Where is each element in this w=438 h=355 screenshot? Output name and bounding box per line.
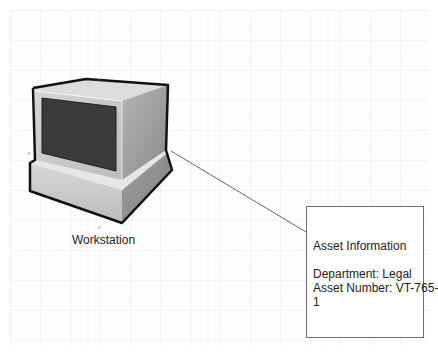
callout-asset-number-cont: 1: [313, 295, 423, 309]
callout-spacer: [313, 253, 423, 267]
asset-info-callout[interactable]: Asset Information Department: Legal Asse…: [306, 206, 424, 338]
connection-point-top-icon[interactable]: ×: [97, 76, 101, 82]
callout-text: Asset Information Department: Legal Asse…: [313, 239, 423, 309]
connection-point-bottom-icon[interactable]: ×: [97, 224, 101, 230]
connection-point-left-icon[interactable]: ×: [27, 150, 31, 156]
callout-asset-number: Asset Number: VT-765-: [313, 281, 423, 295]
callout-title: Asset Information: [313, 239, 423, 253]
callout-department: Department: Legal: [313, 267, 423, 281]
workstation-label[interactable]: Workstation: [72, 233, 135, 247]
